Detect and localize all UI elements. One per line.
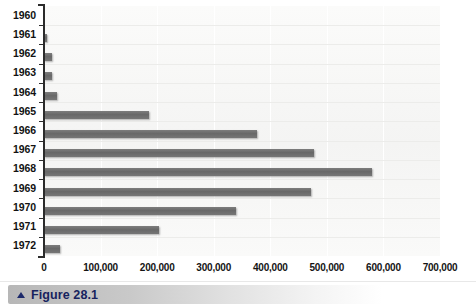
gridline-horizontal: [44, 198, 440, 199]
y-axis-label-1968: 1968: [0, 163, 36, 174]
figure-caption-label: Figure 28.1: [31, 288, 98, 302]
y-axis-label-1962: 1962: [0, 48, 36, 59]
gridline-vertical: [440, 6, 441, 256]
gridline-horizontal: [44, 83, 440, 84]
y-axis-label-1965: 1965: [0, 106, 36, 117]
y-axis-label-1967: 1967: [0, 144, 36, 155]
gridline-horizontal: [44, 218, 440, 219]
gridline-horizontal: [44, 102, 440, 103]
y-axis-tick: [39, 102, 44, 103]
bar-1967: [44, 149, 314, 157]
bar-chart: 1960196119621963196419651966196719681969…: [0, 0, 476, 278]
y-axis-label-1966: 1966: [0, 125, 36, 136]
y-axis-tick: [39, 25, 44, 26]
caption-divider: [0, 281, 476, 282]
y-axis-cap-bottom: [38, 256, 44, 258]
y-axis-tick: [39, 141, 44, 142]
y-axis-tick: [39, 121, 44, 122]
y-axis-label-1969: 1969: [0, 183, 36, 194]
y-axis-tick: [39, 198, 44, 199]
bar-1968: [44, 168, 372, 176]
y-axis-label-1963: 1963: [0, 67, 36, 78]
bar-1970: [44, 207, 236, 215]
y-axis-label-1971: 1971: [0, 221, 36, 232]
y-axis-label-1972: 1972: [0, 240, 36, 251]
bar-1972: [44, 245, 60, 253]
y-axis-tick: [39, 64, 44, 65]
bar-1965: [44, 111, 149, 119]
bar-1963: [44, 72, 52, 80]
figure-caption-bar: Figure 28.1: [8, 285, 476, 304]
y-axis-label-1961: 1961: [0, 29, 36, 40]
triangle-up-icon: [17, 292, 25, 298]
x-axis-label-700000: 700,000: [400, 262, 476, 273]
y-axis-tick: [39, 44, 44, 45]
y-axis-tick: [39, 179, 44, 180]
y-axis-tick: [39, 83, 44, 84]
y-axis-tick: [39, 237, 44, 238]
plot-panel: [44, 6, 440, 256]
bar-1966: [44, 130, 257, 138]
bar-1964: [44, 92, 57, 100]
bar-1969: [44, 188, 311, 196]
gridline-horizontal: [44, 25, 440, 26]
gridline-horizontal: [44, 237, 440, 238]
gridline-horizontal: [44, 44, 440, 45]
figure-container: 1960196119621963196419651966196719681969…: [0, 0, 476, 306]
y-axis-tick: [39, 160, 44, 161]
bar-1962: [44, 53, 52, 61]
y-axis-line: [43, 4, 45, 258]
y-axis-label-1960: 1960: [0, 10, 36, 21]
y-axis-label-1970: 1970: [0, 202, 36, 213]
gridline-horizontal: [44, 64, 440, 65]
gridline-horizontal: [44, 121, 440, 122]
gridline-horizontal: [44, 141, 440, 142]
bar-1971: [44, 226, 159, 234]
y-axis-label-1964: 1964: [0, 87, 36, 98]
gridline-horizontal: [44, 160, 440, 161]
y-axis-tick: [39, 218, 44, 219]
y-axis-cap-top: [38, 4, 44, 6]
gridline-horizontal: [44, 179, 440, 180]
